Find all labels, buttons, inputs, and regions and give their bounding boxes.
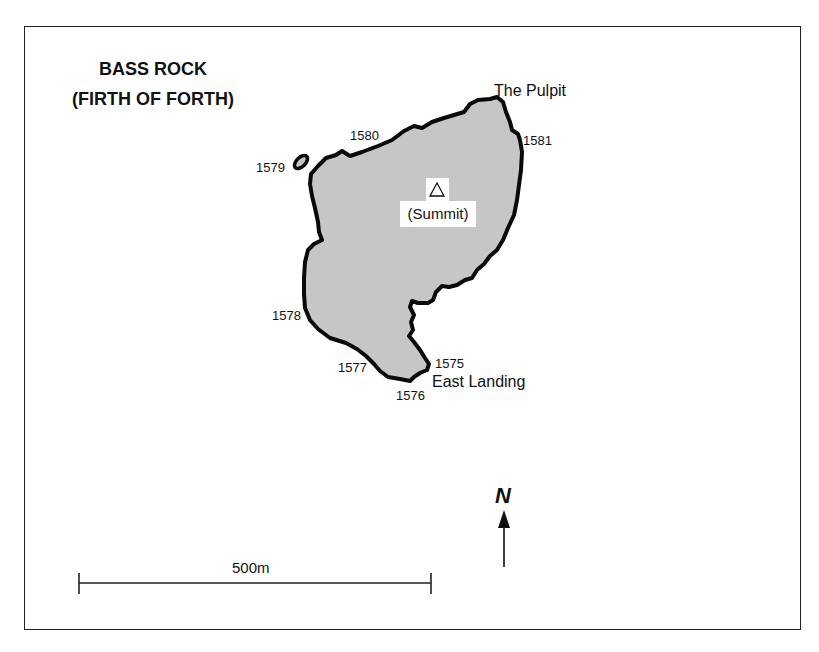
scale-bar-label: 500m xyxy=(232,559,270,576)
map-title: BASS ROCK (FIRTH OF FORTH) xyxy=(48,54,258,114)
scale-bar xyxy=(79,573,431,594)
label-1578: 1578 xyxy=(272,309,301,322)
label-1581: 1581 xyxy=(523,134,552,147)
label-the-pulpit: The Pulpit xyxy=(494,83,566,99)
north-label: N xyxy=(495,483,511,509)
label-1576: 1576 xyxy=(396,389,425,402)
label-1580: 1580 xyxy=(350,129,379,142)
label-1579: 1579 xyxy=(256,161,285,174)
map-title-line2: (FIRTH OF FORTH) xyxy=(48,84,258,114)
label-1575: 1575 xyxy=(435,357,464,370)
summit-label: (Summit) xyxy=(400,205,476,222)
map-title-line1: BASS ROCK xyxy=(48,54,258,84)
label-1577: 1577 xyxy=(338,361,367,374)
bass-rock-island xyxy=(304,97,522,381)
label-east-landing: East Landing xyxy=(432,374,525,390)
north-arrow-icon xyxy=(498,510,510,567)
summit-marker-bg xyxy=(426,178,449,202)
islet-1579 xyxy=(292,153,310,171)
